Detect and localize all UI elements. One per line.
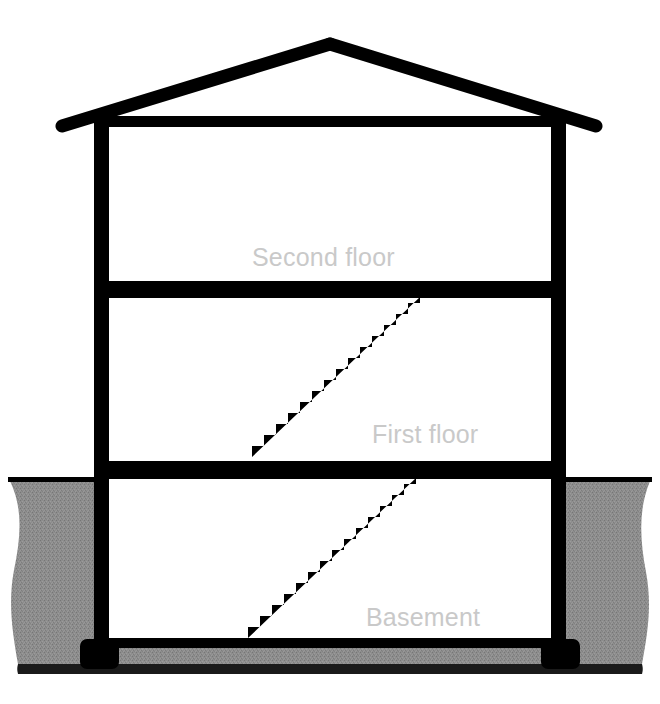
grade-line-left <box>8 477 102 482</box>
roof-tie-beam <box>94 116 566 127</box>
right-footing <box>541 639 580 669</box>
house-cross-section-svg: Second floor First floor Basement <box>0 0 660 704</box>
house-section-diagram: Second floor First floor Basement <box>0 0 660 704</box>
left-exterior-wall <box>94 116 109 658</box>
first-floor-slab <box>94 461 566 479</box>
label-first-floor: First floor <box>372 420 478 448</box>
grade-line-right <box>556 477 652 482</box>
second-floor-slab <box>94 281 566 298</box>
label-second-floor: Second floor <box>252 243 395 271</box>
left-footing <box>80 639 119 669</box>
label-basement: Basement <box>366 603 480 631</box>
basement-floor-slab <box>94 638 566 648</box>
right-exterior-wall <box>551 116 566 658</box>
